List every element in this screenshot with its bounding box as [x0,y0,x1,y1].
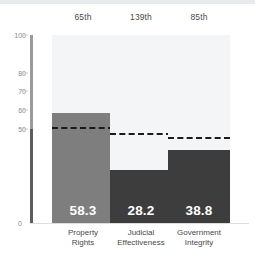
rank-label-2: 85th [164,12,234,22]
bar-group-1: 28.2 [110,35,172,223]
top-divider [0,0,255,4]
bar-2: 38.8 [168,150,230,223]
plot-area: 1008070605058.328.238.8 [30,35,249,223]
x-axis-label-2: Government Integrity [160,228,238,248]
bar-value-label-2: 38.8 [168,203,230,218]
y-tick-label-zero: 0 [18,220,22,227]
reference-line-2 [168,137,230,139]
bar-0: 58.3 [52,113,114,223]
y-tick-mark-100 [21,35,28,36]
y-tick-mark-80 [21,72,28,73]
bar-chart: 65th 139th 85th 0 1008070605058.328.238.… [0,0,255,259]
y-tick-mark-50 [21,129,28,130]
bar-group-2: 38.8 [168,35,230,223]
reference-line-0 [52,127,114,129]
y-tick-mark-70 [21,91,28,92]
x-axis-label-2-line1: Government [160,228,238,238]
x-axis-label-row: Property Rights Judicial Effectiveness G… [30,228,249,256]
bar-value-label-1: 28.2 [110,203,172,218]
bar-value-label-0: 58.3 [52,203,114,218]
rank-label-row: 65th 139th 85th [0,12,255,26]
x-axis-label-2-line2: Integrity [160,238,238,248]
reference-line-1 [110,133,172,135]
y-tick-mark-60 [21,110,28,111]
x-axis-baseline [30,223,249,224]
bar-group-0: 58.3 [52,35,114,223]
bar-1: 28.2 [110,170,172,223]
